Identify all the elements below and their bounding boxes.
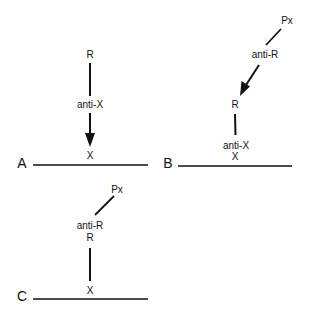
- panel-b-line-r-to-antix: [235, 114, 236, 135]
- panel-c-node-px: Px: [111, 185, 123, 195]
- panel-a-node-r: R: [86, 50, 93, 60]
- panel-b-node-x: X: [232, 152, 239, 162]
- panel-c-line-px-to-antir: [95, 196, 114, 215]
- panel-b-node-anti-r: anti-R: [252, 50, 279, 60]
- panel-a-node-anti-x: anti-X: [77, 100, 103, 110]
- panel-b-line-px-to-antir: [266, 29, 281, 45]
- panel-b-arrow-antir-to-r: [246, 65, 259, 85]
- panel-a-node-x: X: [87, 151, 94, 161]
- panel-b-node-r: R: [231, 100, 238, 110]
- panel-b-node-anti-x: anti-X: [223, 141, 249, 151]
- panel-c-label: C: [17, 289, 27, 303]
- panel-b-arrowhead-icon: [240, 81, 250, 96]
- panel-c-node-anti-r: anti-R: [77, 221, 104, 231]
- panel-c-node-r: R: [86, 233, 93, 243]
- panel-b-node-px: Px: [281, 16, 293, 26]
- panel-c-node-x: X: [87, 286, 94, 296]
- panel-a-arrowhead-icon: [85, 133, 95, 147]
- diagram-canvas: [0, 0, 314, 315]
- panel-c-graphics: [33, 196, 148, 299]
- panel-b-label: B: [163, 156, 172, 170]
- panel-a-label: A: [17, 156, 26, 170]
